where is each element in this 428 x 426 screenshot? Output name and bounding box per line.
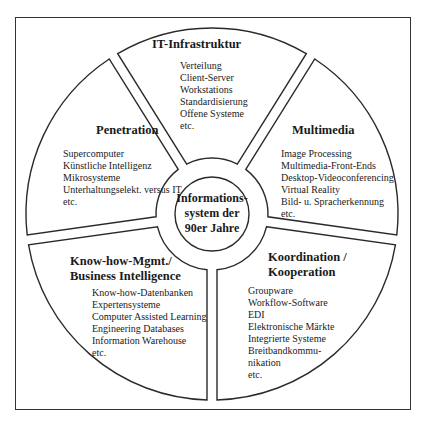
list-item: Elektronische Märkte xyxy=(248,321,334,333)
list-item: Verteilung xyxy=(180,60,248,72)
list-item: Computer Assisted Learning xyxy=(92,311,206,323)
list-item: Multimedia-Front-Ends xyxy=(281,160,394,172)
segment-title-line: Kooperation xyxy=(268,265,347,280)
segment-title-line: Business Intelligence xyxy=(70,269,181,284)
segment-title-multimedia: Multimedia xyxy=(292,123,355,138)
segment-list-it-infrastruktur: Verteilung Client-Server Workstations St… xyxy=(180,60,248,132)
segment-list-know-how: Know-how-Datenbanken Expertensysteme Com… xyxy=(92,287,206,359)
list-item: nikation xyxy=(248,357,334,369)
center-label-line: Informations- xyxy=(172,191,252,206)
segment-title-penetration: Penetration xyxy=(96,123,158,138)
segment-title-koordination: Koordination / Kooperation xyxy=(268,250,347,280)
list-item: Offene Systeme xyxy=(180,108,248,120)
list-item: etc. xyxy=(92,347,206,359)
list-item: Virtual Reality xyxy=(281,184,394,196)
segment-list-multimedia: Image Processing Multimedia-Front-Ends D… xyxy=(281,148,394,220)
list-item: Künstliche Intelligenz xyxy=(63,160,182,172)
list-item: Know-how-Datenbanken xyxy=(92,287,206,299)
segment-list-koordination: Groupware Workflow-Software EDI Elektron… xyxy=(248,285,334,381)
list-item: etc. xyxy=(248,369,334,381)
list-item: Bild- u. Spracherkennung xyxy=(281,196,394,208)
list-item: etc. xyxy=(63,196,182,208)
list-item: Groupware xyxy=(248,285,334,297)
segment-title-line: Know-how-Mgmt./ xyxy=(70,254,181,269)
segment-title-know-how: Know-how-Mgmt./ Business Intelligence xyxy=(70,254,181,284)
segment-list-penetration: Supercomputer Künstliche Intelligenz Mik… xyxy=(63,148,182,208)
list-item: Breitbandkommu- xyxy=(248,345,334,357)
list-item: Workstations xyxy=(180,84,248,96)
list-item: Mikrosysteme xyxy=(63,172,182,184)
list-item: Desktop-Videoconferencing xyxy=(281,172,394,184)
list-item: Standardisierung xyxy=(180,96,248,108)
list-item: Expertensysteme xyxy=(92,299,206,311)
list-item: Unterhaltungselekt. versus IT xyxy=(63,184,182,196)
center-label-line: system der xyxy=(172,206,252,221)
segment-title-line: Koordination / xyxy=(268,250,347,265)
list-item: Integrierte Systeme xyxy=(248,333,334,345)
segment-title-it-infrastruktur: IT-Infrastruktur xyxy=(152,37,241,52)
list-item: EDI xyxy=(248,309,334,321)
list-item: Engineering Databases xyxy=(92,323,206,335)
list-item: Supercomputer xyxy=(63,148,182,160)
list-item: Client-Server xyxy=(180,72,248,84)
list-item: etc. xyxy=(180,120,248,132)
center-label-line: 90er Jahre xyxy=(172,221,252,236)
list-item: Image Processing xyxy=(281,148,394,160)
list-item: Workflow-Software xyxy=(248,297,334,309)
list-item: Information Warehouse xyxy=(92,335,206,347)
center-label: Informations- system der 90er Jahre xyxy=(172,191,252,236)
list-item: etc. xyxy=(281,208,394,220)
